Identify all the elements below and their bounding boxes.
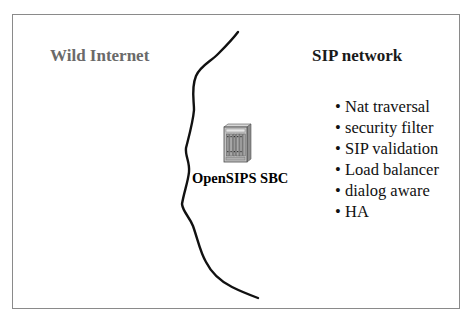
- bullet-icon: •: [335, 159, 345, 180]
- feature-label: SIP validation: [345, 139, 438, 158]
- feature-label: HA: [345, 202, 369, 221]
- feature-list: •Nat traversal •security filter •SIP val…: [335, 96, 439, 222]
- feature-item: •Load balancer: [335, 159, 439, 180]
- feature-item: •Nat traversal: [335, 96, 439, 117]
- opensips-sbc-label: OpenSIPS SBC: [192, 169, 288, 187]
- sip-network-label: SIP network: [312, 46, 402, 66]
- wild-internet-label: Wild Internet: [50, 46, 149, 66]
- feature-item: •dialog aware: [335, 180, 439, 201]
- diagram-canvas: Wild Internet SIP network: [0, 0, 472, 320]
- bullet-icon: •: [335, 117, 345, 138]
- feature-item: •HA: [335, 201, 439, 222]
- feature-label: Load balancer: [345, 160, 439, 179]
- feature-label: security filter: [345, 118, 433, 137]
- bullet-icon: •: [335, 138, 345, 159]
- server-chassis-icon: [223, 123, 252, 163]
- feature-item: •SIP validation: [335, 138, 439, 159]
- bullet-icon: •: [335, 96, 345, 117]
- feature-item: •security filter: [335, 117, 439, 138]
- feature-label: Nat traversal: [345, 97, 430, 116]
- feature-label: dialog aware: [345, 181, 430, 200]
- bullet-icon: •: [335, 180, 345, 201]
- bullet-icon: •: [335, 201, 345, 222]
